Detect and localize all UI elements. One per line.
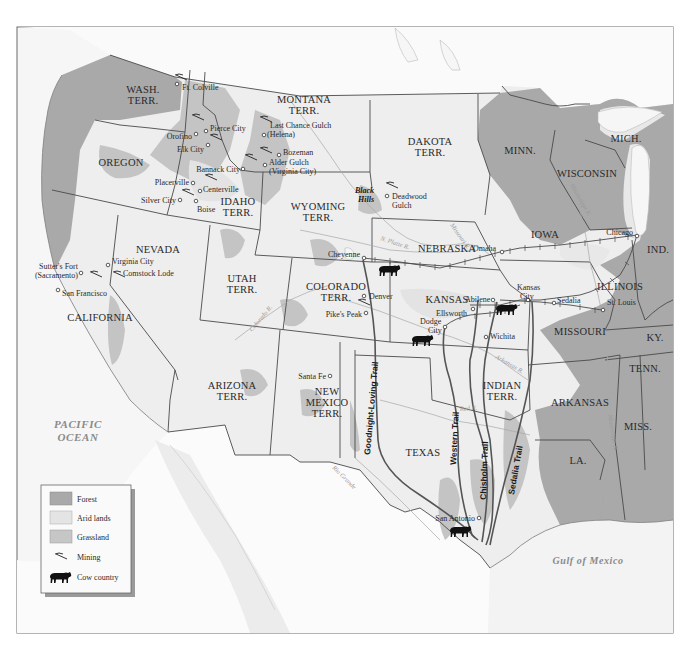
label-silver-city: Silver City [141, 196, 176, 205]
label-iowa: IOWA [531, 229, 559, 240]
label-bannack-city: Bannack City [196, 165, 240, 174]
label-last-chance-gulch: Last Chance Gulch [270, 121, 331, 130]
label-chisholm-trail: Chisholm Trail [478, 441, 490, 500]
label-boise: Boise [197, 205, 216, 214]
label-kansas: KANSAS [425, 294, 468, 305]
label-kansas-city: Kansas [517, 283, 540, 292]
map-canvas: PACIFIC OCEAN Gulf of Mexico WASH. TERR.… [0, 0, 691, 649]
label-missouri: MISSOURI [554, 326, 606, 337]
label-san-antonio: San Antonio [435, 514, 475, 523]
pacific-ocean-label-2: OCEAN [58, 431, 99, 443]
legend-label-cow-country: Cow country [77, 573, 119, 582]
label-alder-gulch: Alder Gulch [269, 158, 309, 167]
label-oregon: OREGON [99, 157, 144, 168]
label-la: LA. [569, 455, 586, 466]
label-miss: MISS. [624, 421, 652, 432]
label-nevada: NEVADA [136, 244, 180, 255]
label-pikes-peak: Pike's Peak [326, 310, 362, 319]
map-legend: Forest Arid lands Grassland Mining Cow c… [41, 485, 135, 597]
label-new-mexico-terr: TERR. [312, 408, 342, 419]
label-deadwood: Deadwood [392, 192, 427, 201]
label-bozeman: Bozeman [283, 148, 313, 157]
label-california: CALIFORNIA [67, 312, 133, 323]
legend-label-mining: Mining [77, 553, 101, 562]
label-ft-colville: Ft. Colville [182, 83, 219, 92]
label-abilene: Abilene [465, 295, 491, 304]
label-arkansas: ARKANSAS [551, 397, 609, 408]
western-frontier-map: PACIFIC OCEAN Gulf of Mexico WASH. TERR.… [0, 0, 691, 649]
label-ind: IND. [647, 244, 669, 255]
label-wyoming-terr: TERR. [303, 212, 333, 223]
label-wash-terr: TERR. [128, 95, 158, 106]
label-sacramento: (Sacramento) [35, 271, 78, 280]
label-utah: UTAH [227, 273, 256, 284]
label-sedalia: Sedalia [557, 296, 581, 305]
label-st-louis: St. Louis [607, 298, 636, 307]
label-cheyenne: Cheyenne [328, 250, 360, 259]
legend-swatch-grassland [50, 530, 72, 543]
label-comstock-lode: Comstock Lode [123, 269, 174, 278]
label-tenn: TENN. [629, 363, 661, 374]
label-dakota-terr: TERR. [415, 147, 445, 158]
legend-swatch-arid [50, 511, 72, 524]
label-montana-terr: TERR. [289, 105, 319, 116]
legend-label-arid: Arid lands [77, 514, 111, 523]
label-wichita: Wichita [490, 332, 515, 341]
label-arizona-terr: TERR. [217, 391, 247, 402]
label-sutters-fort: Sutter's Fort [39, 262, 79, 271]
label-denver: Denver [369, 292, 393, 301]
label-wyoming: WYOMING [291, 201, 346, 212]
label-montana: MONTANA [277, 94, 331, 105]
legend-label-forest: Forest [77, 495, 98, 504]
label-colorado: COLORADO [306, 281, 366, 292]
label-black-hills-2: Hills [357, 195, 374, 204]
label-virginia-city-mt: (Virginia City) [269, 167, 316, 176]
label-chicago: Chicago [606, 228, 633, 237]
label-wisconsin: WISCONSIN [557, 168, 617, 179]
label-dodge-city-2: City [428, 326, 442, 335]
label-new-mexico: NEW [315, 386, 340, 397]
label-arizona: ARIZONA [208, 380, 257, 391]
label-centerville: Centerville [203, 185, 239, 194]
legend-swatch-forest [50, 492, 72, 505]
label-idaho-terr: TERR. [223, 207, 253, 218]
label-minn: MINN. [504, 145, 536, 156]
label-texas: TEXAS [406, 447, 441, 458]
label-kansas-city-2: City [520, 292, 534, 301]
label-new-mexico-2: MEXICO [306, 397, 349, 408]
label-virginia-city-nv: Virginia City [112, 257, 154, 266]
gulf-of-mexico-label: Gulf of Mexico [552, 555, 623, 566]
label-ky: KY. [646, 332, 663, 343]
label-idaho: IDAHO [221, 196, 256, 207]
label-san-francisco: San Francisco [62, 289, 107, 298]
label-santa-fe: Santa Fe [298, 372, 326, 381]
label-helena: (Helena) [267, 130, 295, 139]
label-colorado-terr: TERR. [321, 292, 351, 303]
label-pierce-city: Pierce City [210, 124, 246, 133]
label-placerville: Placerville [155, 178, 190, 187]
label-wash: WASH. [126, 84, 159, 95]
label-illinois: ILLINOIS [597, 281, 643, 292]
label-utah-terr: TERR. [227, 284, 257, 295]
pacific-ocean-label: PACIFIC [54, 418, 102, 430]
legend-label-grassland: Grassland [77, 533, 109, 542]
label-elk-city: Elk City [177, 145, 204, 154]
label-indian-terr: TERR. [487, 391, 517, 402]
label-orofino: Orofino [167, 132, 192, 141]
label-mich: MICH. [610, 133, 641, 144]
label-dodge-city: Dodge [420, 317, 442, 326]
label-black-hills: Black [354, 186, 374, 195]
label-deadwood-gulch: Gulch [392, 201, 412, 210]
label-omaha: Omaha [473, 244, 497, 253]
label-dakota: DAKOTA [408, 136, 453, 147]
label-indian: INDIAN [483, 380, 522, 391]
